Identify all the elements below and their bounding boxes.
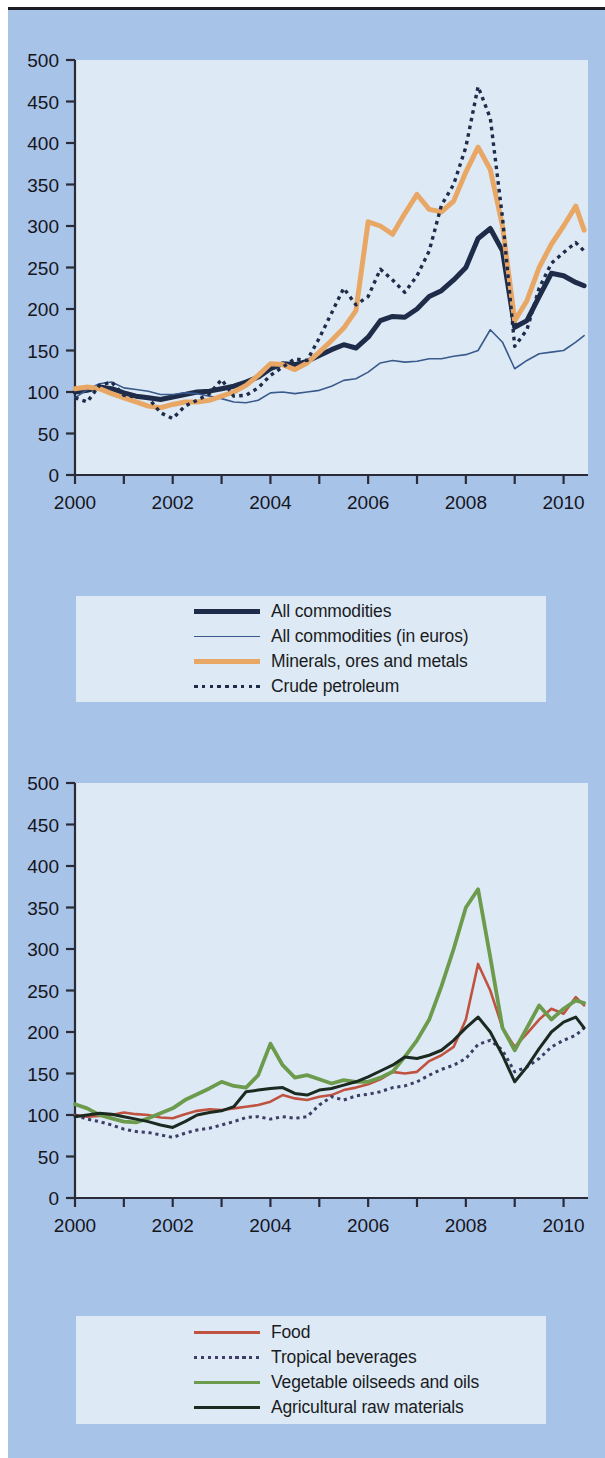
y-tick-label: 200 <box>27 1022 59 1043</box>
legend-upper: All commoditiesAll commodities (in euros… <box>76 596 546 702</box>
y-tick-label: 0 <box>48 465 59 486</box>
figure-lower: 0501001502002503003504004505002000200220… <box>0 723 605 1303</box>
y-tick-label: 300 <box>27 216 59 237</box>
x-tick-label: 2008 <box>445 492 487 513</box>
x-tick-label: 2002 <box>152 492 194 513</box>
legend-row: Minerals, ores and metals <box>194 649 546 674</box>
legend-row: Food <box>194 1320 546 1345</box>
figure-upper: 0501001502002503003504004505002000200220… <box>0 0 605 580</box>
y-tick-label: 450 <box>27 815 59 836</box>
y-tick-label: 0 <box>48 1188 59 1209</box>
legend-swatch <box>194 630 260 644</box>
x-tick-label: 2004 <box>249 492 292 513</box>
legend-swatch <box>194 1326 260 1340</box>
y-tick-label: 500 <box>27 50 59 71</box>
y-tick-label: 150 <box>27 341 59 362</box>
legend-label: Food <box>271 1322 310 1343</box>
legend-label: Tropical beverages <box>271 1347 416 1368</box>
legend-swatch <box>194 655 260 669</box>
y-tick-label: 350 <box>27 898 59 919</box>
legend-label: Minerals, ores and metals <box>271 651 468 672</box>
legend-row: Crude petroleum <box>194 674 546 699</box>
legend-swatch <box>194 680 260 694</box>
y-tick-label: 250 <box>27 258 59 279</box>
y-tick-label: 350 <box>27 175 59 196</box>
legend-row: All commodities <box>194 599 546 624</box>
x-tick-label: 2010 <box>542 1215 584 1236</box>
x-tick-label: 2008 <box>445 1215 487 1236</box>
plot-area-background <box>75 783 588 1198</box>
y-tick-label: 200 <box>27 299 59 320</box>
legend-row: Vegetable oilseeds and oils <box>194 1370 546 1395</box>
x-tick-label: 2006 <box>347 1215 389 1236</box>
legend-swatch <box>194 1401 260 1415</box>
plot-area-background <box>75 60 588 475</box>
y-tick-label: 150 <box>27 1064 59 1085</box>
legend-label: Agricultural raw materials <box>271 1397 464 1418</box>
chart-upper-svg: 0501001502002503003504004505002000200220… <box>0 0 605 580</box>
chart-lower-svg: 0501001502002503003504004505002000200220… <box>0 723 605 1303</box>
y-tick-label: 400 <box>27 856 59 877</box>
legend-label: All commodities (in euros) <box>271 626 468 647</box>
x-tick-label: 2002 <box>152 1215 194 1236</box>
legend-swatch <box>194 605 260 619</box>
legend-label: Vegetable oilseeds and oils <box>271 1372 479 1393</box>
legend-row: Tropical beverages <box>194 1345 546 1370</box>
legend-swatch <box>194 1351 260 1365</box>
legend-label: All commodities <box>271 601 391 622</box>
legend-swatch <box>194 1376 260 1390</box>
x-tick-label: 2010 <box>542 492 584 513</box>
y-tick-label: 50 <box>38 1147 59 1168</box>
y-tick-label: 450 <box>27 92 59 113</box>
y-tick-label: 500 <box>27 773 59 794</box>
y-tick-label: 100 <box>27 382 59 403</box>
legend-label: Crude petroleum <box>271 676 399 697</box>
x-tick-label: 2000 <box>54 1215 96 1236</box>
x-tick-label: 2000 <box>54 492 96 513</box>
legend-lower: FoodTropical beveragesVegetable oilseeds… <box>76 1316 546 1424</box>
y-tick-label: 250 <box>27 981 59 1002</box>
y-tick-label: 300 <box>27 939 59 960</box>
y-tick-label: 50 <box>38 424 59 445</box>
x-tick-label: 2004 <box>249 1215 292 1236</box>
page-root: 0501001502002503003504004505002000200220… <box>0 0 605 1458</box>
y-tick-label: 400 <box>27 133 59 154</box>
legend-row: Agricultural raw materials <box>194 1395 546 1420</box>
legend-row: All commodities (in euros) <box>194 624 546 649</box>
y-tick-label: 100 <box>27 1105 59 1126</box>
x-tick-label: 2006 <box>347 492 389 513</box>
